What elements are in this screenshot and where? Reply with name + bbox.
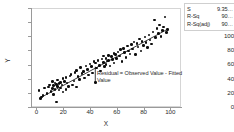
stats-value-rsqadj: 90… — [221, 21, 234, 28]
scatter-point — [78, 78, 81, 81]
scatter-point — [82, 70, 85, 73]
scatter-point — [97, 59, 100, 62]
stats-row-rsqadj: R-Sq(adj) 90… — [187, 21, 234, 28]
scatter-point — [166, 28, 169, 31]
y-tick-label: 40 — [210, 76, 234, 82]
scatter-point — [114, 53, 117, 56]
scatter-point — [52, 93, 55, 96]
scatter-point — [160, 35, 163, 38]
scatter-point — [154, 36, 157, 39]
residual-annotation-line2: Value — [97, 77, 193, 84]
scatter-point — [65, 76, 68, 79]
scatter-point — [107, 59, 110, 62]
scatter-point — [79, 66, 82, 69]
statistics-box: S 9.35… R-Sq 90… R-Sq(adj) 90… — [184, 3, 234, 31]
y-tick-label: 80 — [210, 47, 234, 53]
y-tick-mark — [28, 65, 31, 66]
y-tick-mark — [28, 22, 31, 23]
scatter-point — [161, 29, 164, 32]
scatter-point — [153, 19, 156, 22]
scatter-point — [142, 44, 145, 47]
scatter-point — [67, 85, 70, 88]
scatter-point — [98, 64, 101, 67]
stats-key-s: S — [187, 6, 195, 13]
scatter-point — [123, 51, 126, 54]
y-tick-label: 60 — [210, 61, 234, 67]
scatter-point — [111, 58, 114, 61]
scatter-point — [157, 32, 160, 35]
scatter-point — [75, 69, 78, 72]
stats-row-s: S 9.35… — [187, 6, 234, 13]
stats-value-s: 9.35… — [217, 6, 234, 13]
stats-row-rsq: R-Sq 90… — [187, 13, 234, 20]
y-axis-line — [31, 8, 32, 108]
stats-key-rsqadj: R-Sq(adj) — [187, 21, 214, 28]
fitted-line-plot: Y X 020406080100120140 020406080100 Resi… — [0, 0, 234, 132]
stats-key-rsq: R-Sq — [187, 13, 203, 20]
x-tick-mark — [90, 108, 91, 111]
y-tick-mark — [28, 93, 31, 94]
y-tick-label: 0 — [210, 104, 234, 110]
x-tick-mark — [36, 108, 37, 111]
y-tick-mark — [28, 107, 31, 108]
scatter-point — [146, 46, 149, 49]
scatter-point — [90, 65, 93, 68]
scatter-point — [130, 43, 133, 46]
x-axis-title: X — [31, 120, 181, 127]
scatter-point — [158, 24, 161, 27]
residual-annotation: Residual = Observed Value - Fitted Value — [97, 70, 193, 84]
y-tick-label: 20 — [210, 90, 234, 96]
stats-value-rsq: 90… — [221, 13, 234, 20]
y-tick-mark — [28, 79, 31, 80]
scatter-point — [156, 27, 159, 30]
x-axis-line — [31, 107, 182, 108]
residual-annotation-line1: Residual = Observed Value - Fitted — [97, 70, 193, 77]
x-tick-mark — [117, 108, 118, 111]
scatter-point — [122, 47, 125, 50]
y-tick-mark — [28, 50, 31, 51]
y-tick-label: 100 — [210, 33, 234, 39]
x-tick-mark — [144, 108, 145, 111]
scatter-point — [165, 31, 168, 34]
y-tick-mark — [28, 8, 31, 9]
y-axis-title: Y — [4, 51, 11, 71]
scatter-point — [134, 53, 137, 56]
scatter-point — [59, 87, 62, 90]
scatter-point — [86, 68, 89, 71]
scatter-point — [115, 57, 118, 60]
x-tick-mark — [170, 108, 171, 111]
x-tick-mark — [63, 108, 64, 111]
y-tick-mark — [28, 36, 31, 37]
scatter-point — [136, 42, 139, 45]
scatter-point — [43, 87, 46, 90]
scatter-point — [65, 88, 68, 91]
